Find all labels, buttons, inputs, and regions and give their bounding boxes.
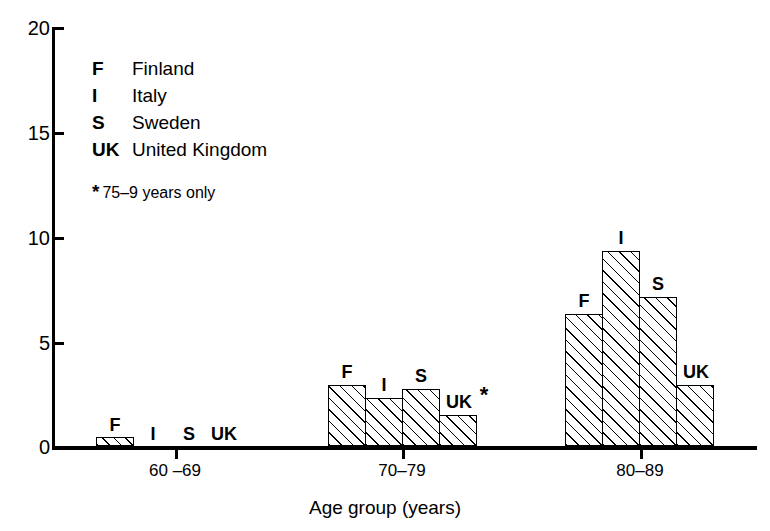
legend-item-italy: I Italy bbox=[92, 82, 322, 109]
bar-label-italy-70-79: I bbox=[364, 376, 404, 394]
y-axis-tick-5 bbox=[55, 342, 64, 345]
x-axis-label-80-89: 80–89 bbox=[580, 461, 700, 481]
legend-key-sweden: S bbox=[92, 109, 132, 136]
bar-finland-70-79 bbox=[328, 385, 366, 446]
bar-label-sweden-80-89: S bbox=[638, 275, 678, 293]
legend-key-italy: I bbox=[92, 82, 132, 109]
legend-footnote-text: 75–9 years only bbox=[102, 184, 215, 201]
y-axis-tick-20 bbox=[55, 27, 64, 30]
legend-footnote-asterisk: * bbox=[92, 181, 99, 202]
bar-uk-80-89 bbox=[676, 385, 714, 446]
x-axis-label-70-79: 70–79 bbox=[342, 461, 462, 481]
bar-italy-70-79 bbox=[365, 398, 403, 446]
x-axis-tick-80-89 bbox=[640, 450, 643, 459]
bar-label-uk-80-89: UK bbox=[674, 363, 718, 381]
legend-item-united-kingdom: UK United Kingdom bbox=[92, 136, 322, 163]
bar-label-finland-80-89: F bbox=[564, 292, 604, 310]
x-axis-title: Age group (years) bbox=[0, 497, 770, 519]
y-axis-tick-10 bbox=[55, 237, 64, 240]
y-axis-label-5: 5 bbox=[6, 333, 50, 353]
bar-label-uk-60-69: UK bbox=[202, 425, 246, 443]
y-axis-tick-15 bbox=[55, 132, 64, 135]
bar-italy-80-89 bbox=[602, 251, 640, 446]
legend-footnote: *75–9 years only bbox=[92, 182, 215, 203]
legend-label-sweden: Sweden bbox=[132, 109, 201, 136]
bar-uk-70-79 bbox=[439, 415, 477, 446]
bar-finland-80-89 bbox=[565, 314, 603, 446]
y-axis-label-15: 15 bbox=[6, 123, 50, 143]
legend-label-italy: Italy bbox=[132, 82, 167, 109]
legend-item-sweden: S Sweden bbox=[92, 109, 322, 136]
bar-sweden-70-79 bbox=[402, 389, 440, 446]
bar-label-finland-60-69: F bbox=[95, 416, 135, 434]
bar-label-finland-70-79: F bbox=[327, 363, 367, 381]
bar-label-uk-70-79-text: UK bbox=[446, 392, 472, 412]
x-axis-tick-70-79 bbox=[402, 450, 405, 459]
x-axis-tick-60-69 bbox=[175, 450, 178, 459]
legend-key-united-kingdom: UK bbox=[92, 136, 132, 163]
chart-legend: F Finland I Italy S Sweden UK United Kin… bbox=[92, 55, 322, 163]
legend-label-finland: Finland bbox=[132, 55, 194, 82]
y-axis-label-20: 20 bbox=[6, 18, 50, 38]
legend-key-finland: F bbox=[92, 55, 132, 82]
y-axis-label-0: 0 bbox=[6, 437, 50, 457]
bar-finland-60-69 bbox=[96, 437, 134, 446]
bar-label-italy-80-89: I bbox=[601, 229, 641, 247]
legend-item-finland: F Finland bbox=[92, 55, 322, 82]
footnote-asterisk-uk-70-79: * bbox=[474, 386, 494, 404]
y-axis-label-10: 10 bbox=[6, 228, 50, 248]
legend-label-united-kingdom: United Kingdom bbox=[132, 136, 267, 163]
bar-chart: 20 15 10 5 0 60 –69 70–79 80–89 Age grou… bbox=[0, 0, 770, 531]
x-axis-label-60-69: 60 –69 bbox=[115, 461, 235, 481]
bar-label-italy-60-69: I bbox=[133, 425, 173, 443]
bar-sweden-80-89 bbox=[639, 297, 677, 446]
bar-label-sweden-70-79: S bbox=[401, 367, 441, 385]
